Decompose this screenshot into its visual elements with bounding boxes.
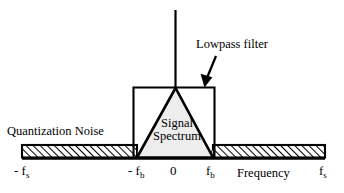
quantization-noise-band-right	[213, 145, 325, 158]
tick-label-zero: 0	[170, 163, 177, 179]
arrow-head-icon	[201, 74, 213, 88]
signal-spectrum-label-line1: Signal	[148, 117, 206, 130]
tick-label-pos-fs-sub: s	[323, 170, 327, 180]
tick-label-neg-fs-sub: s	[26, 170, 30, 180]
tick-label-neg-fb-text: - f	[128, 163, 140, 178]
tick-label-neg-fs: - fs	[14, 163, 29, 179]
lowpass-filter-label: Lowpass filter	[196, 38, 268, 51]
tick-label-neg-fs-text: - f	[14, 163, 26, 178]
signal-spectrum-label: Signal Spectrum	[148, 117, 206, 143]
signal-spectrum-diagram: Lowpass filter Quantization Noise Signal…	[0, 0, 344, 193]
signal-spectrum-label-line2: Spectrum	[148, 130, 206, 143]
tick-label-neg-fb: - fb	[128, 163, 144, 179]
arrow-shaft-icon	[207, 56, 217, 79]
tick-label-zero-text: 0	[170, 163, 177, 178]
lowpass-filter-arrow	[201, 56, 216, 88]
noise-band-right-rect	[213, 145, 325, 158]
frequency-axis-label: Frequency	[237, 167, 290, 180]
tick-label-pos-fs: fs	[319, 163, 327, 179]
quantization-noise-band-left	[22, 145, 137, 158]
tick-label-pos-fb-sub: b	[210, 170, 215, 180]
quantization-noise-label: Quantization Noise	[7, 125, 104, 138]
tick-label-pos-fb: fb	[206, 163, 215, 179]
noise-band-left-rect	[22, 145, 137, 158]
tick-label-neg-fb-sub: b	[140, 170, 145, 180]
